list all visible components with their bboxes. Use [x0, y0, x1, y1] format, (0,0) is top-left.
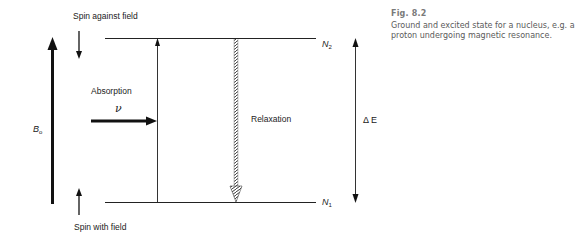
spin-against-field-label: Spin against field — [73, 11, 138, 21]
absorption-transition-arrow-icon — [155, 38, 160, 202]
radiation-arrow-icon — [91, 117, 157, 126]
caption-text: Ground and excited state for a nucleus, … — [391, 21, 584, 41]
lower-level-label: N1 — [322, 197, 332, 208]
field-subscript: o — [39, 129, 42, 135]
upper-level-label: N2 — [322, 39, 332, 50]
upper-level-subscript: 2 — [329, 44, 332, 50]
field-label: Bo — [33, 124, 42, 135]
magnetic-field-arrow-icon — [48, 37, 58, 204]
relaxation-transition-arrow-icon — [230, 39, 242, 202]
energy-gap-label: Δ E — [363, 115, 377, 125]
lower-level-subscript: 1 — [329, 202, 332, 208]
spin-with-field-label: Spin with field — [74, 222, 126, 232]
figure-caption: Fig. 8.2 Ground and excited state for a … — [391, 9, 584, 41]
energy-gap-arrow-icon — [353, 38, 359, 203]
spin-up-arrow-icon — [76, 188, 82, 215]
figure-number: Fig. 8.2 — [391, 9, 584, 18]
frequency-symbol: ν — [115, 102, 122, 115]
spin-down-arrow-icon — [76, 31, 82, 59]
relaxation-label: Relaxation — [251, 114, 291, 124]
absorption-label: Absorption — [91, 86, 132, 96]
